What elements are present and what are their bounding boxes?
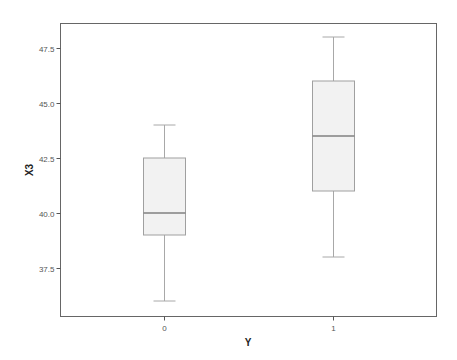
iqr-box — [144, 158, 186, 235]
y-tick-label: 40.0 — [39, 210, 55, 219]
box-plot-chart: 37.540.042.545.047.5 01 Y X3 — [0, 0, 457, 360]
x-tick-label: 0 — [162, 324, 167, 333]
y-axis: 37.540.042.545.047.5 — [39, 45, 61, 274]
x-tick-label: 1 — [331, 324, 336, 333]
y-tick-label: 42.5 — [39, 155, 55, 164]
y-tick-label: 45.0 — [39, 100, 55, 109]
x-axis: 01 — [162, 317, 336, 333]
plot-frame — [61, 24, 437, 317]
y-tick-label: 47.5 — [39, 45, 55, 54]
x-axis-title: Y — [245, 337, 252, 348]
y-tick-label: 37.5 — [39, 265, 55, 274]
y-axis-title: X3 — [24, 163, 35, 176]
